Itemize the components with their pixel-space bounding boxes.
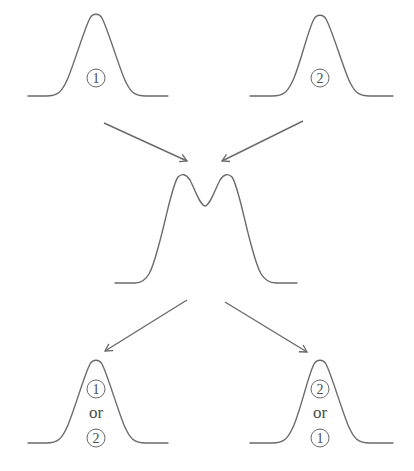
circled-label-bottom-left-second: 2 — [87, 429, 106, 448]
arrow-middle-to-bottom-right — [225, 302, 307, 352]
or-label-bottom-left: or — [89, 404, 103, 422]
circled-label-top-left: 1 — [87, 69, 106, 88]
circled-label-bottom-left-first: 1 — [87, 380, 106, 399]
arrow-top-left-to-middle — [104, 123, 187, 161]
diagram-canvas — [0, 0, 414, 471]
arrow-top-right-to-middle — [222, 121, 303, 161]
circled-label-bottom-right-second: 1 — [311, 429, 330, 448]
arrow-middle-to-bottom-left — [105, 300, 187, 351]
or-label-bottom-right: or — [313, 404, 327, 422]
circled-label-top-right: 2 — [311, 69, 330, 88]
bimodal-curve-middle — [115, 175, 297, 283]
circled-label-bottom-right-first: 2 — [311, 380, 330, 399]
